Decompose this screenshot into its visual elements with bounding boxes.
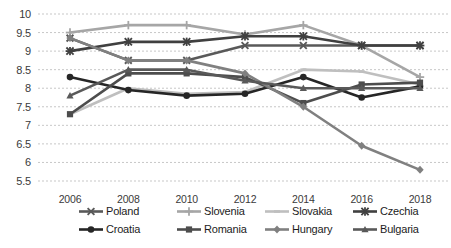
legend-marker-plus-icon <box>176 206 202 217</box>
chart-legend: PolandSloveniaSlovakiaCzechiaCroatiaRoma… <box>0 206 451 242</box>
legend-marker-line-icon <box>264 206 290 217</box>
legend-label: Czechia <box>380 206 418 217</box>
legend-label: Croatia <box>106 224 140 235</box>
legend-item-slovakia[interactable]: Slovakia <box>264 206 332 217</box>
legend-item-czechia[interactable]: Czechia <box>352 206 418 217</box>
legend-item-croatia[interactable]: Croatia <box>78 224 140 235</box>
x-tick-label: 2006 <box>59 194 82 205</box>
legend-marker-cross-x-icon <box>78 206 104 217</box>
legend-marker-circle-icon <box>78 224 104 235</box>
legend-label: Poland <box>106 206 139 217</box>
legend-marker-star-icon <box>352 206 378 217</box>
x-tick-label: 2008 <box>117 194 140 205</box>
legend-marker-square-icon <box>176 224 202 235</box>
legend-marker-triangle-icon <box>352 224 378 235</box>
legend-label: Slovakia <box>292 206 332 217</box>
line-chart: 109.598.587.576.565.5 200620082010201220… <box>0 0 451 248</box>
x-tick-label: 2012 <box>234 194 257 205</box>
chart-canvas <box>0 0 451 190</box>
legend-label: Hungary <box>292 224 332 235</box>
legend-label: Bulgaria <box>380 224 419 235</box>
x-tick-label: 2010 <box>175 194 198 205</box>
legend-label: Romania <box>204 224 247 235</box>
legend-item-hungary[interactable]: Hungary <box>264 224 332 235</box>
plot-area: 109.598.587.576.565.5 200620082010201220… <box>0 0 451 190</box>
legend-item-poland[interactable]: Poland <box>78 206 139 217</box>
series-hungary <box>66 34 423 174</box>
legend-item-slovenia[interactable]: Slovenia <box>176 206 245 217</box>
x-tick-label: 2014 <box>292 194 315 205</box>
legend-label: Slovenia <box>204 206 245 217</box>
x-tick-label: 2016 <box>350 194 373 205</box>
legend-marker-diamond-icon <box>264 224 290 235</box>
legend-item-romania[interactable]: Romania <box>176 224 247 235</box>
x-tick-label: 2018 <box>409 194 432 205</box>
legend-item-bulgaria[interactable]: Bulgaria <box>352 224 419 235</box>
